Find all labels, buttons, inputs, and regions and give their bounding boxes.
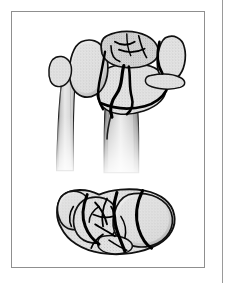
- medial-epicondyle-fragment: [49, 56, 72, 86]
- bone-illustration: [12, 12, 204, 267]
- figure-title: Comminuted distal femur fracture: [0, 0, 1, 1]
- lateral-condyle-lip: [145, 74, 184, 89]
- illustration-page: Comminuted distal femur fracture: [0, 0, 232, 283]
- figure-frame: [11, 11, 205, 268]
- anteroposterior-view: [49, 31, 185, 172]
- column-divider-rule: [222, 0, 223, 283]
- axial-view: [57, 189, 175, 254]
- intercondylar-fragment: [101, 31, 158, 67]
